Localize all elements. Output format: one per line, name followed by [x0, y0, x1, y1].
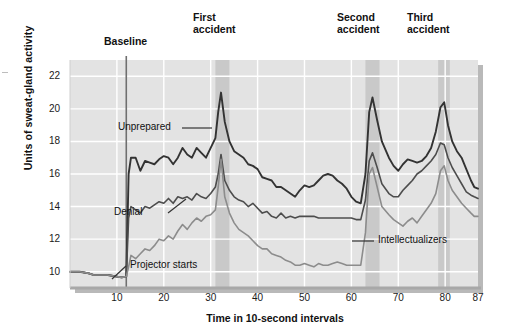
- annotation-baseline: Baseline: [104, 36, 147, 48]
- x-axis-title: Time in 10-second intervals: [70, 312, 480, 324]
- annotation-third-accident-line1: Third: [407, 11, 433, 23]
- annotation-first-accident: Firstaccident: [193, 12, 236, 35]
- annotation-second-accident-line1: Second: [337, 11, 375, 23]
- x-tick-80: 80: [432, 292, 458, 303]
- annotation-first-accident-line2: accident: [193, 23, 236, 35]
- x-tick-10: 10: [104, 292, 130, 303]
- y-axis-title: Units of sweat-gland activity: [22, 0, 34, 198]
- annotation-third-accident-line2: accident: [407, 23, 450, 35]
- annotation-first-accident-line1: First: [193, 11, 216, 23]
- y-tick-22: 22: [38, 70, 60, 81]
- y-tick-20: 20: [38, 103, 60, 114]
- annotation-third-accident: Thirdaccident: [407, 12, 450, 35]
- y-tick-16: 16: [38, 168, 60, 179]
- x-tick-50: 50: [291, 292, 317, 303]
- callout-projector-starts: Projector starts: [130, 259, 197, 270]
- y-tick-14: 14: [38, 201, 60, 212]
- figure-root: BaselineFirstaccidentSecondaccidentThird…: [0, 0, 526, 335]
- y-tick-18: 18: [38, 135, 60, 146]
- annotation-second-accident-line2: accident: [337, 23, 380, 35]
- x-tick-40: 40: [245, 292, 271, 303]
- annotation-second-accident: Secondaccident: [337, 12, 380, 35]
- series-label-intellectualizers: Intellectualizers: [378, 234, 447, 245]
- series-label-unprepared: Unprepared: [118, 121, 171, 132]
- x-tick-60: 60: [338, 292, 364, 303]
- y-tick-10: 10: [38, 266, 60, 277]
- x-tick-70: 70: [385, 292, 411, 303]
- y-tick-12: 12: [38, 233, 60, 244]
- x-tick-20: 20: [151, 292, 177, 303]
- x-tick-30: 30: [198, 292, 224, 303]
- series-label-denial: Denial: [114, 206, 142, 217]
- page-edge-artifact: [2, 72, 8, 79]
- chart-canvas: [0, 0, 526, 335]
- x-tick-87: 87: [465, 292, 491, 303]
